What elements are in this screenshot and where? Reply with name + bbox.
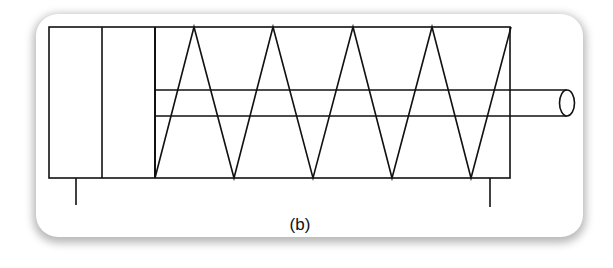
piston-rod <box>155 90 575 116</box>
figure-stage: (b) <box>0 0 613 268</box>
figure-caption: (b) <box>270 215 330 235</box>
return-spring <box>155 27 511 178</box>
